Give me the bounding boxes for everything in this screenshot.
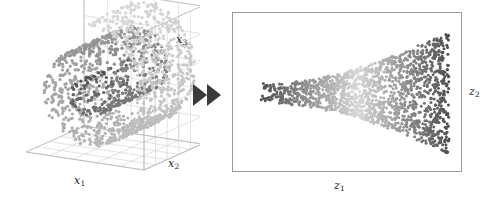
axis-label-x3: x3 <box>176 34 187 45</box>
double-right-arrow-icon <box>191 80 223 110</box>
swiss-roll-3d-panel: x1 x2 x3 <box>0 0 200 204</box>
scatter-points-3d <box>43 1 196 148</box>
axis-label-z2: z2 <box>469 86 480 97</box>
axis-label-x2: x2 <box>168 158 179 169</box>
plot-frame-border <box>232 12 462 172</box>
axis-label-z1: z1 <box>334 180 345 191</box>
manifold-unrolling-figure: x1 x2 x3 z1 z2 <box>0 0 497 204</box>
unrolled-embedding-canvas <box>233 13 461 171</box>
axis-label-x1: x1 <box>74 175 85 186</box>
unrolled-embedding-2d-panel: z1 z2 <box>226 0 497 204</box>
swiss-roll-3d-canvas <box>0 0 200 204</box>
scatter-points-2d <box>260 33 451 154</box>
